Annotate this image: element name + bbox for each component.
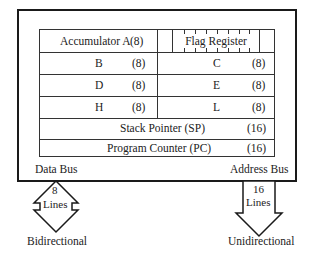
data-bus-width-number: 8 [52,184,58,196]
data-bus-width-unit: Lines [43,198,67,210]
bus-arrows [0,0,314,255]
address-bus-width-unit: Lines [246,196,270,208]
data-bus-direction: Bidirectional [27,235,87,247]
address-bus-direction: Unidirectional [228,235,294,247]
address-bus-width-number: 16 [253,183,264,195]
